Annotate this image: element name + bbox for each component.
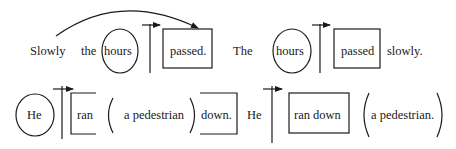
word-a-pedestrian-paren: a pedestrian — [124, 109, 184, 122]
word-a-pedestrian-end: a pedestrian. — [371, 109, 434, 122]
paren-close-2 — [437, 93, 442, 137]
word-he: He — [247, 109, 262, 122]
word-slowly-end: slowly. — [387, 45, 423, 58]
word-hours-circled: hours — [104, 45, 132, 58]
word-slowly: Slowly — [30, 45, 65, 58]
word-ran-bracketed: ran — [77, 109, 93, 122]
curved-arrow — [56, 11, 198, 36]
word-hours-circled-2: hours — [276, 45, 304, 58]
paren-close-1 — [190, 98, 195, 133]
paren-open-1 — [109, 98, 114, 133]
word-the: the — [81, 45, 96, 58]
sentence-diagram: Slowly the hours passed. The hours passe… — [0, 0, 456, 149]
word-passed-boxed-2: passed — [341, 45, 374, 58]
word-passed-boxed: passed. — [170, 45, 206, 58]
word-ran-down-boxed: ran down — [294, 109, 341, 122]
word-the-cap: The — [233, 45, 252, 58]
word-down-bracketed: down. — [201, 109, 232, 122]
paren-open-2 — [364, 93, 369, 137]
diagram-graphics — [0, 0, 456, 149]
word-he-circled: He — [27, 109, 42, 122]
